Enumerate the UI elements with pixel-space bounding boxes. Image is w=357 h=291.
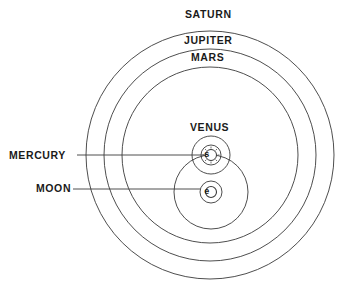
saturn-label: SATURN xyxy=(185,8,232,20)
venus-label: VENUS xyxy=(190,121,229,133)
tychonic-system-diagram xyxy=(0,0,357,291)
jupiter-label: JUPITER xyxy=(184,34,233,46)
earth-symbol: e xyxy=(204,186,210,196)
moon-label: MOON xyxy=(36,182,71,194)
sun-symbol: s xyxy=(204,149,210,159)
mercury-label: MERCURY xyxy=(9,149,66,161)
mars-label: MARS xyxy=(191,51,224,63)
